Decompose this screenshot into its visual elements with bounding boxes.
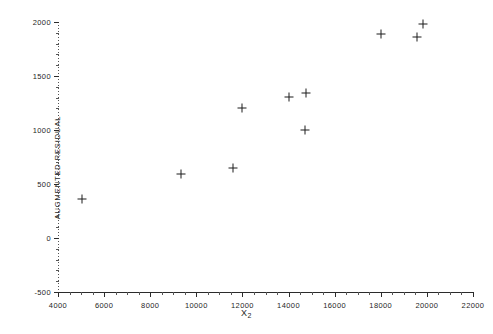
x-axis-minor-tick — [162, 292, 163, 295]
x-axis-minor-tick — [231, 292, 232, 295]
x-axis-minor-tick — [266, 292, 267, 295]
x-axis-minor-tick — [208, 292, 209, 295]
data-point — [301, 126, 310, 135]
y-axis-minor-tick — [56, 141, 59, 142]
y-axis-tick-label: 1500 — [33, 72, 51, 81]
y-axis-major-tick — [54, 22, 59, 23]
x-axis-minor-tick — [219, 292, 220, 295]
y-axis-minor-tick — [56, 281, 59, 282]
x-axis-title-subscript: 2 — [248, 312, 252, 319]
y-axis-minor-tick — [56, 260, 59, 261]
x-axis-minor-tick — [404, 292, 405, 295]
x-axis-minor-tick — [116, 292, 117, 295]
x-axis-minor-tick — [81, 292, 82, 295]
y-axis-tick-label: 500 — [37, 180, 51, 189]
x-axis-minor-tick — [415, 292, 416, 295]
y-axis-minor-tick — [56, 195, 59, 196]
x-axis-minor-tick — [450, 292, 451, 295]
y-axis-minor-tick — [56, 270, 59, 271]
data-point — [176, 170, 185, 179]
x-axis-major-tick — [473, 292, 474, 297]
x-axis-minor-tick — [312, 292, 313, 295]
data-point — [77, 195, 86, 204]
y-axis-line — [58, 22, 59, 292]
y-axis-minor-tick — [56, 44, 59, 45]
x-axis-title-base: X — [241, 308, 248, 318]
plot-area: -5000500100015002000 4000600080001000012… — [58, 22, 473, 292]
y-axis-minor-tick — [56, 87, 59, 88]
data-point — [376, 29, 385, 38]
x-axis-minor-tick — [346, 292, 347, 295]
x-axis-minor-tick — [438, 292, 439, 295]
x-axis-major-tick — [58, 292, 59, 297]
y-axis-major-tick — [54, 76, 59, 77]
x-axis-minor-tick — [127, 292, 128, 295]
x-axis-major-tick — [242, 292, 243, 297]
y-axis-tick-label: -500 — [34, 288, 51, 297]
x-axis-minor-tick — [254, 292, 255, 295]
x-axis-minor-tick — [300, 292, 301, 295]
y-axis-minor-tick — [56, 227, 59, 228]
x-axis-minor-tick — [173, 292, 174, 295]
y-axis-tick-label: 1000 — [33, 126, 51, 135]
x-axis-major-tick — [196, 292, 197, 297]
data-point — [302, 88, 311, 97]
x-axis-minor-tick — [277, 292, 278, 295]
x-axis-major-tick — [289, 292, 290, 297]
y-axis-minor-tick — [56, 54, 59, 55]
y-axis-major-tick — [54, 130, 59, 131]
y-axis-major-tick — [54, 238, 59, 239]
y-axis-minor-tick — [56, 108, 59, 109]
x-axis-title: X2 — [0, 308, 493, 318]
y-axis-minor-tick — [56, 249, 59, 250]
y-axis-minor-tick — [56, 119, 59, 120]
x-axis-major-tick — [427, 292, 428, 297]
data-point — [418, 20, 427, 29]
y-axis-minor-tick — [56, 216, 59, 217]
y-axis-minor-tick — [56, 152, 59, 153]
y-axis-minor-tick — [56, 173, 59, 174]
data-point — [228, 163, 237, 172]
scatter-plot-figure: AUGMENTED RESIDUAL -5000500100015002000 … — [0, 0, 493, 334]
x-axis-minor-tick — [392, 292, 393, 295]
data-point — [237, 103, 246, 112]
x-axis-major-tick — [381, 292, 382, 297]
x-axis-major-tick — [150, 292, 151, 297]
y-axis-tick-label: 0 — [46, 234, 51, 243]
x-axis-minor-tick — [369, 292, 370, 295]
y-axis-major-tick — [54, 184, 59, 185]
x-axis-minor-tick — [358, 292, 359, 295]
x-axis-minor-tick — [70, 292, 71, 295]
x-axis-minor-tick — [185, 292, 186, 295]
y-axis-minor-tick — [56, 162, 59, 163]
x-axis-minor-tick — [461, 292, 462, 295]
x-axis-minor-tick — [93, 292, 94, 295]
y-axis-tick-label: 2000 — [33, 18, 51, 27]
data-point — [412, 33, 421, 42]
data-point — [284, 93, 293, 102]
x-axis-minor-tick — [139, 292, 140, 295]
x-axis-minor-tick — [323, 292, 324, 295]
y-axis-minor-tick — [56, 206, 59, 207]
y-axis-minor-tick — [56, 65, 59, 66]
x-axis-major-tick — [335, 292, 336, 297]
x-axis-major-tick — [104, 292, 105, 297]
y-axis-minor-tick — [56, 33, 59, 34]
y-axis-minor-tick — [56, 98, 59, 99]
